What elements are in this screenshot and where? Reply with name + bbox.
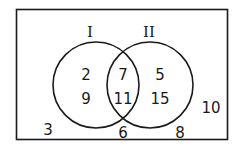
only-I-value: 9 bbox=[81, 90, 91, 108]
set-I-circle bbox=[53, 42, 139, 128]
only-I-value: 2 bbox=[81, 66, 91, 84]
outside-value: 3 bbox=[43, 121, 53, 139]
only-II-value: 5 bbox=[155, 66, 165, 84]
outside-value: 6 bbox=[118, 124, 128, 142]
set-II-circle bbox=[107, 42, 193, 128]
intersection-value: 11 bbox=[113, 90, 132, 108]
intersection-value: 7 bbox=[118, 66, 128, 84]
set-II-label: II bbox=[143, 23, 155, 41]
outside-value: 10 bbox=[201, 99, 220, 117]
only-II-value: 15 bbox=[150, 90, 169, 108]
outside-value: 8 bbox=[175, 124, 185, 142]
venn-diagram: I II 2 9 7 11 5 15 3 6 8 10 bbox=[0, 0, 242, 152]
set-I-label: I bbox=[87, 23, 93, 41]
